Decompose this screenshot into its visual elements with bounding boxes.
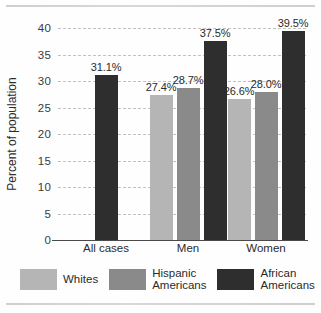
- legend-label: African Americans: [260, 267, 314, 292]
- legend-item: Whites: [20, 269, 98, 290]
- bottom-divider-rule: [6, 303, 315, 305]
- bar-value-label: 31.1%: [91, 61, 122, 73]
- x-axis-category-label: All cases: [83, 242, 129, 254]
- legend-swatch: [20, 269, 57, 290]
- x-axis-category-labels: All casesMenWomen: [58, 242, 306, 258]
- y-axis-tick-label: 0: [44, 234, 51, 246]
- bar-value-label: 28.7%: [173, 74, 204, 86]
- chart-legend: WhitesHispanic AmericansAfrican American…: [20, 264, 305, 294]
- legend-item: Hispanic Americans: [109, 267, 206, 292]
- x-axis-category-label: Men: [177, 242, 199, 254]
- legend-swatch: [109, 269, 146, 290]
- y-axis-tick-label: 25: [38, 102, 51, 114]
- legend-label: Hispanic Americans: [152, 267, 206, 292]
- chart-figure: Percent of population 0510152025303540 3…: [0, 0, 321, 313]
- y-axis-tick-label: 20: [38, 128, 51, 140]
- legend-item: African Americans: [217, 267, 314, 292]
- plot-area: 0510152025303540 31.1%27.4%28.7%37.5%26.…: [58, 28, 306, 240]
- bar: 27.4%: [150, 95, 173, 240]
- bar: 28.0%: [255, 92, 278, 240]
- y-axis-tick-label: 30: [38, 75, 51, 87]
- bars-layer: 31.1%27.4%28.7%37.5%26.6%28.0%39.5%: [58, 28, 306, 240]
- legend-label: Whites: [63, 273, 98, 286]
- bar-value-label: 37.5%: [200, 27, 231, 39]
- x-axis-baseline: [52, 240, 308, 241]
- y-axis-title-label: Percent of population: [5, 77, 19, 190]
- y-axis-tick-label: 40: [38, 22, 51, 34]
- bar-value-label: 28.0%: [251, 78, 282, 90]
- x-axis-category-label: Women: [246, 242, 285, 254]
- y-axis-tick-label: 10: [38, 181, 51, 193]
- bar: 39.5%: [282, 31, 305, 240]
- legend-swatch: [217, 269, 254, 290]
- bar: 26.6%: [228, 99, 251, 240]
- y-axis-title: Percent of population: [4, 28, 20, 240]
- y-axis-tick-label: 15: [38, 155, 51, 167]
- y-axis-tick-label: 35: [38, 49, 51, 61]
- y-axis-tick-label: 5: [44, 208, 51, 220]
- bar: 31.1%: [95, 75, 118, 240]
- bar-value-label: 39.5%: [278, 17, 309, 29]
- bar: 37.5%: [204, 41, 227, 240]
- top-divider-rule: [6, 5, 315, 7]
- bar: 28.7%: [177, 88, 200, 240]
